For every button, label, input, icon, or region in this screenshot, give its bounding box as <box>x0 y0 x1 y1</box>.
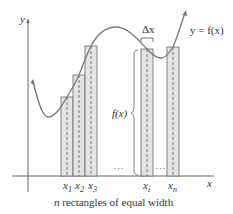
curve-left-arrow-icon <box>31 79 36 85</box>
ellipsis-right: … <box>155 160 166 171</box>
caption: n rectangles of equal width <box>54 197 173 208</box>
fx-height-label: f(x) <box>112 108 127 119</box>
x-axis-label: x <box>207 178 212 189</box>
delta-x-label: Δx <box>142 24 155 35</box>
delta-x-bracket <box>141 38 153 42</box>
curve-label: y = f(x) <box>190 25 224 36</box>
tick-x1: x1 <box>63 180 72 194</box>
function-curve <box>33 13 185 117</box>
riemann-sum-diagram: y x y = f(x) Δx f(x) … … x1 x2 x3 xi xn … <box>0 0 233 214</box>
y-axis-arrow-icon <box>27 18 30 23</box>
ellipsis-left: … <box>113 160 124 171</box>
rect-n <box>167 47 179 176</box>
curve-right-arrow-icon <box>183 10 188 16</box>
tick-x2: x2 <box>75 180 84 194</box>
y-axis-label: y <box>20 14 25 25</box>
tick-xn: xn <box>168 180 177 194</box>
tick-xi: xi <box>143 180 150 194</box>
height-brace <box>131 50 138 175</box>
tick-x3: x3 <box>88 180 97 194</box>
